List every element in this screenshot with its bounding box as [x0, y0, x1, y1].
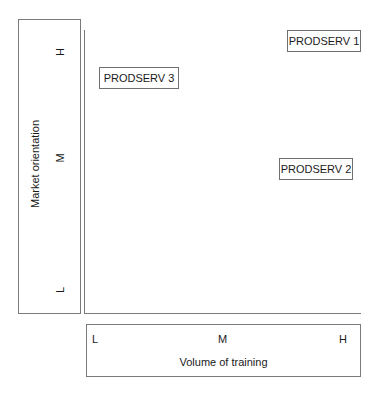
- y-axis-title: Market orientation: [29, 114, 41, 214]
- x-axis-title: Volume of training: [86, 356, 361, 368]
- x-axis-line: [84, 313, 361, 314]
- x-axis-label-box: [86, 324, 361, 377]
- node-prodserv-2: PRODSERV 2: [279, 158, 353, 180]
- x-axis-tick-low: L: [92, 333, 98, 345]
- y-axis-label-box: [18, 19, 81, 314]
- x-axis-tick-high: H: [339, 333, 347, 345]
- node-prodserv-1: PRODSERV 1: [287, 30, 361, 52]
- y-axis-line: [84, 30, 85, 314]
- node-prodserv-3: PRODSERV 3: [99, 67, 179, 89]
- y-axis-tick-high: H: [54, 47, 66, 57]
- x-axis-tick-medium: M: [218, 333, 227, 345]
- y-axis-tick-medium: M: [54, 153, 66, 163]
- y-axis-tick-low: L: [54, 285, 66, 295]
